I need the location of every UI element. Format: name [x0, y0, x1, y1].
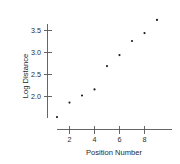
y-axis-title: Log Distance	[21, 54, 30, 98]
scatter-plot-figure: Number of the Months 2.02.53.03.5 2468 P…	[0, 0, 180, 164]
y-tick-label: 3.0	[31, 48, 41, 57]
data-point	[81, 95, 83, 97]
y-tick-label: 2.5	[31, 70, 41, 79]
data-point	[118, 54, 120, 56]
data-point	[106, 65, 108, 67]
y-tick-label: 2.0	[31, 92, 41, 101]
data-point	[156, 19, 158, 21]
x-tick-label: 6	[118, 135, 122, 144]
y-axis-ticks: 2.02.53.03.5	[31, 26, 52, 101]
y-tick-label: 3.5	[31, 26, 41, 35]
data-point	[143, 32, 145, 34]
data-point	[68, 102, 70, 104]
x-tick-label: 2	[68, 135, 72, 144]
plot-area: 2.02.53.03.5 2468 Position Number Log Di…	[0, 0, 180, 164]
data-point	[93, 88, 95, 90]
x-tick-label: 4	[93, 135, 97, 144]
data-point	[131, 40, 133, 42]
data-point	[56, 116, 58, 118]
x-axis-title: Position Number	[86, 148, 143, 157]
x-axis-ticks: 2468	[68, 126, 147, 145]
scatter-chart-svg: 2.02.53.03.5 2468 Position Number Log Di…	[0, 0, 180, 164]
data-points	[56, 19, 158, 118]
x-tick-label: 8	[143, 135, 147, 144]
